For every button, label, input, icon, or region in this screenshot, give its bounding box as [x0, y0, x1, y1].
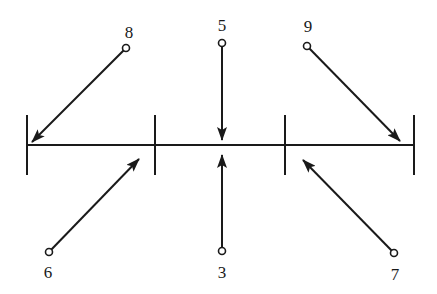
node-label-9: 9	[304, 17, 313, 36]
arrow-8	[32, 50, 124, 142]
node-label-8: 8	[125, 23, 134, 42]
node-circle-9	[304, 43, 311, 50]
node-circle-7	[391, 250, 398, 257]
arrow-9	[309, 49, 400, 141]
arrow-7	[303, 160, 392, 250]
arrows	[32, 47, 400, 251]
node-circle-5	[219, 40, 226, 47]
node-label-3: 3	[218, 263, 227, 282]
arrow-6	[51, 159, 139, 249]
node-label-6: 6	[44, 263, 53, 282]
node-label-5: 5	[218, 16, 227, 35]
node-circle-6	[46, 249, 53, 256]
load-diagram: 859637	[0, 0, 437, 294]
node-label-7: 7	[391, 265, 400, 284]
node-circle-3	[219, 248, 226, 255]
node-circle-8	[123, 45, 130, 52]
